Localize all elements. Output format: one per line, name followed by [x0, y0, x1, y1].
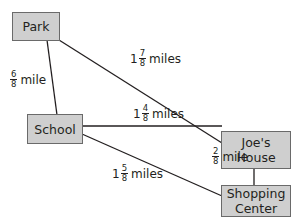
fraction: 58 [121, 164, 128, 183]
node-school-label: School [34, 122, 76, 137]
label-park-joes-house: 1 78 miles [130, 49, 181, 68]
node-shopping-center-line1: Shopping [227, 186, 286, 201]
node-shopping-center: Shopping Center [221, 185, 291, 217]
fraction: 78 [139, 49, 146, 68]
node-park-label: Park [22, 19, 49, 34]
edge-park-school [47, 40, 57, 115]
fraction: 28 [212, 147, 219, 166]
node-shopping-center-line2: Center [235, 201, 277, 216]
label-park-school: 68 mile [10, 70, 46, 89]
distance-diagram: Park School Joe's House Shopping Center … [0, 0, 306, 223]
label-school-joes-house: 1 48 miles [133, 104, 184, 123]
fraction: 68 [10, 70, 17, 89]
fraction: 48 [142, 104, 149, 123]
label-joes-house-shopping-center: 28 mile [212, 147, 248, 166]
node-park: Park [12, 12, 60, 41]
label-school-shopping-center: 1 58 miles [112, 164, 163, 183]
node-school: School [27, 114, 83, 144]
